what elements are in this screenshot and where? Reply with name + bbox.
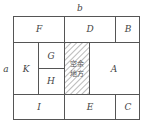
hatched-empty-area bbox=[64, 42, 89, 94]
layout-diagram: b a F D B K G H A I E C 空余 地方 bbox=[0, 0, 141, 133]
hatched-text-line2: 地方 bbox=[70, 69, 84, 78]
region-I-label: I bbox=[36, 102, 41, 112]
region-K-label: K bbox=[22, 64, 31, 74]
region-G-label: G bbox=[47, 51, 54, 61]
width-label: b bbox=[77, 3, 83, 13]
region-E-label: E bbox=[86, 102, 94, 112]
height-label: a bbox=[3, 64, 8, 74]
hatched-text-line1: 空余 bbox=[70, 59, 84, 68]
region-F-label: F bbox=[35, 24, 43, 34]
region-C-label: C bbox=[125, 102, 132, 112]
region-D-label: D bbox=[85, 24, 93, 34]
region-H-label: H bbox=[46, 76, 55, 86]
region-B-label: B bbox=[124, 24, 132, 34]
region-A-label: A bbox=[110, 64, 118, 74]
